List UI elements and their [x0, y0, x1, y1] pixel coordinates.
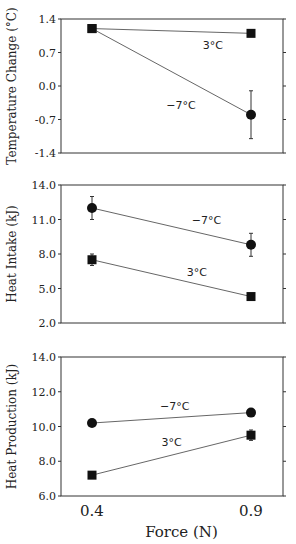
plot-frame [61, 19, 283, 153]
series-annotation: −7°C [192, 214, 222, 227]
circle-marker [87, 203, 97, 213]
square-marker [247, 29, 256, 38]
square-marker [88, 24, 97, 33]
series-7C [88, 24, 257, 139]
y-tick-label: 0.7 [39, 47, 57, 60]
x-axis-label: Force (N) [145, 523, 218, 541]
y-tick-label: 11.0 [32, 214, 57, 227]
y-tick-label: -0.7 [35, 114, 56, 127]
series-line [92, 413, 251, 423]
y-tick-label: 2.0 [39, 317, 57, 330]
y-tick-label: 8.0 [39, 455, 57, 468]
circle-marker [246, 240, 256, 250]
y-tick-label: -1.4 [35, 147, 56, 160]
square-marker [88, 471, 97, 480]
series-annotation: 3°C [187, 266, 207, 279]
y-tick-label: 14.0 [32, 351, 57, 364]
series-7C [87, 197, 256, 257]
y-tick-label: 10.0 [32, 421, 57, 434]
series-annotation: 3°C [203, 39, 223, 52]
y-tick-label: 5.0 [39, 283, 57, 296]
series-annotation: −7°C [166, 99, 196, 112]
y-tick-label: 12.0 [32, 386, 57, 399]
square-marker [88, 255, 97, 264]
figure: 1.40.70.0-0.7-1.4Temperature Change (°C)… [0, 0, 296, 544]
series-line [92, 260, 251, 297]
y-tick-label: 1.4 [39, 13, 57, 26]
y-axis-label: Temperature Change (°C) [5, 7, 19, 164]
panel-middle: 14.011.08.05.02.0Heat Intake (kJ)−7°C3°C [5, 179, 286, 330]
circle-marker [246, 408, 256, 418]
x-tick-label: 0.4 [80, 502, 104, 520]
circle-marker [87, 418, 97, 428]
panel-bottom: 14.012.010.08.06.0Heat Production (kJ)−7… [5, 351, 286, 541]
panel-top: 1.40.70.0-0.7-1.4Temperature Change (°C)… [5, 7, 286, 164]
square-marker [247, 431, 256, 440]
series-annotation: −7°C [160, 400, 190, 413]
series-line [92, 29, 251, 34]
series-3C [88, 254, 256, 301]
x-tick-label: 0.9 [239, 502, 263, 520]
circle-marker [246, 110, 256, 120]
y-tick-label: 0.0 [39, 80, 57, 93]
y-tick-label: 6.0 [39, 490, 57, 503]
y-tick-label: 8.0 [39, 248, 57, 261]
square-marker [247, 292, 256, 301]
y-axis-label: Heat Intake (kJ) [5, 205, 19, 302]
y-tick-label: 14.0 [32, 179, 57, 192]
series-annotation: 3°C [161, 436, 181, 449]
series-line [92, 208, 251, 245]
series-3C [88, 24, 256, 38]
y-axis-label: Heat Production (kJ) [5, 364, 19, 489]
